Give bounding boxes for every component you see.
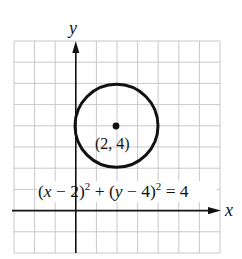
- center-label: (2, 4): [95, 135, 130, 153]
- center-point: [113, 123, 120, 130]
- y-axis-label: y: [67, 18, 77, 38]
- eq-y-var: y: [113, 181, 123, 201]
- circle-equation: (x − 2)2 + (y − 4)2 = 4: [38, 180, 189, 201]
- eq-x-var: x: [43, 181, 52, 201]
- eq-part2: − 2): [52, 181, 85, 201]
- circle-graph-figure: y x (2, 4) (x − 2)2 + (y − 4)2 = 4: [0, 0, 242, 259]
- eq-part4: − 4): [123, 181, 156, 201]
- x-axis-label: x: [224, 200, 233, 220]
- eq-part3: + (: [90, 181, 115, 201]
- x-axis-arrow-icon: [208, 207, 221, 214]
- y-axis-arrow-icon: [72, 41, 79, 53]
- eq-part5: = 4: [161, 181, 189, 201]
